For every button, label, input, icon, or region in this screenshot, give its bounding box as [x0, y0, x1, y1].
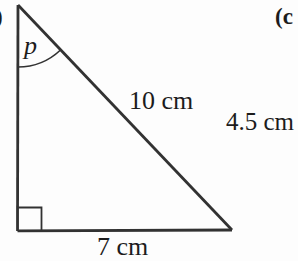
triangle-hypotenuse: [18, 5, 232, 230]
base-length-label: 7 cm: [97, 234, 148, 260]
triangle-left-side: [18, 5, 19, 231]
right-angle-marker: [18, 208, 42, 231]
adjacent-figure-length-label: 4.5 cm: [226, 109, 294, 134]
angle-label-p: p: [24, 33, 37, 59]
geometry-figure: p 10 cm 4.5 cm 7 cm (c ): [0, 0, 298, 261]
triangle-base: [18, 230, 233, 231]
part-c-label: (c: [275, 5, 293, 28]
hypotenuse-length-label: 10 cm: [129, 88, 193, 114]
part-b-label-fragment: ): [0, 5, 3, 28]
